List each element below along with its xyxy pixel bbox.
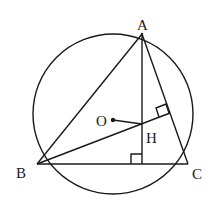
point-o-dot bbox=[111, 118, 115, 122]
label-h: H bbox=[146, 130, 157, 146]
label-c: C bbox=[192, 166, 202, 182]
segment-oh bbox=[113, 120, 142, 124]
label-o: O bbox=[96, 113, 107, 129]
geometry-diagram: A B C H O bbox=[0, 0, 222, 220]
label-a: A bbox=[137, 17, 148, 33]
label-b: B bbox=[16, 165, 26, 181]
diagram-svg: A B C H O bbox=[0, 0, 222, 220]
point-a-dot bbox=[141, 33, 143, 35]
right-angle-mark-bc bbox=[131, 154, 142, 164]
right-angle-mark-ac bbox=[156, 104, 169, 117]
